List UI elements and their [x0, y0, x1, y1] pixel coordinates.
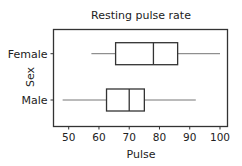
y-category-label: Female	[8, 48, 48, 61]
iqr-box	[116, 43, 178, 65]
x-tick-label: 50	[62, 131, 75, 143]
y-category-label: Male	[21, 94, 47, 107]
iqr-box	[107, 89, 145, 111]
y-axis-label: Sex	[24, 66, 37, 87]
x-tick-label: 60	[92, 131, 105, 143]
pulse-boxplot-chart: Resting pulse rate 5060708090100 FemaleM…	[0, 0, 242, 166]
chart-title: Resting pulse rate	[91, 9, 191, 22]
x-tick-label: 100	[210, 131, 230, 143]
x-tick-label: 80	[153, 131, 166, 143]
x-tick-label: 70	[123, 131, 136, 143]
boxes	[63, 43, 220, 111]
x-axis: 5060708090100	[62, 127, 230, 143]
box-female	[91, 43, 220, 65]
x-tick-label: 90	[183, 131, 196, 143]
plot-frame	[54, 30, 228, 127]
box-male	[63, 89, 196, 111]
x-axis-label: Pulse	[127, 148, 156, 161]
